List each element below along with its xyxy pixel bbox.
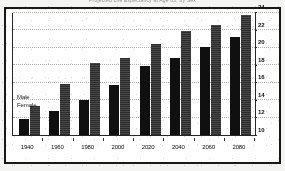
bar-female — [30, 106, 40, 135]
x-axis-tick-mark — [254, 138, 255, 141]
x-axis-tick-mark — [163, 138, 164, 141]
y-axis-tick-mark — [255, 100, 257, 101]
x-axis-tick-label: 2060 — [202, 144, 215, 151]
y-axis-tick-mark — [255, 65, 257, 66]
y-axis-tick-mark — [255, 82, 257, 83]
bar-female — [181, 31, 191, 135]
bar-female — [241, 15, 251, 135]
bar-male — [200, 47, 210, 135]
y-axis-tick-label: 10 — [258, 127, 264, 133]
chart-screenshot: Projected Life Expectancy at Age 65, by … — [0, 0, 285, 171]
y-axis-tick-mark — [255, 47, 257, 48]
y-axis-tick-label: 20 — [258, 39, 264, 45]
bar-female — [120, 58, 130, 135]
chart-frame: 1012141618202224 19401960198020002020204… — [4, 7, 281, 164]
bar-group — [135, 13, 165, 135]
plot-area — [12, 13, 255, 136]
y-axis-tick-label: 24 — [258, 4, 264, 10]
bar-male — [109, 85, 119, 135]
chart-legend: Male Female — [17, 93, 36, 109]
bar-group — [226, 13, 256, 135]
bar-male — [170, 58, 180, 135]
y-axis: 1012141618202224 — [255, 13, 277, 136]
y-axis-tick-label: 18 — [258, 57, 264, 63]
bar-group — [14, 13, 44, 135]
bar-male — [49, 111, 59, 135]
bar-male — [230, 37, 240, 135]
legend-item-female: Female — [17, 101, 36, 109]
y-axis-tick-mark — [255, 117, 257, 118]
x-axis-tick-mark — [224, 138, 225, 141]
y-axis-tick-mark — [255, 12, 257, 13]
x-axis-tick-label: 2080 — [232, 144, 245, 151]
bar-male — [79, 100, 89, 135]
bar-group — [105, 13, 135, 135]
x-axis-tick-label: 2040 — [172, 144, 185, 151]
chart-title-strip: Projected Life Expectancy at Age 65, by … — [0, 0, 285, 7]
x-axis: 19401960198020002020204020602080 — [12, 138, 255, 158]
y-axis-tick-label: 12 — [258, 109, 264, 115]
x-axis-tick-mark — [194, 138, 195, 141]
bar-group — [44, 13, 74, 135]
bar-groups — [14, 13, 255, 135]
y-axis-tick-label: 22 — [258, 22, 264, 28]
bar-group — [196, 13, 226, 135]
y-axis-tick-label: 16 — [258, 74, 264, 80]
x-axis-tick-label: 1940 — [21, 144, 34, 151]
bar-female — [60, 84, 70, 135]
bar-group — [165, 13, 195, 135]
bar-female — [211, 25, 221, 135]
y-axis-tick-mark — [255, 30, 257, 31]
bar-female — [151, 44, 161, 136]
bar-female — [90, 63, 100, 135]
bar-male — [19, 119, 29, 135]
x-axis-tick-label: 2020 — [142, 144, 155, 151]
x-axis-tick-mark — [133, 138, 134, 141]
bar-male — [140, 66, 150, 135]
y-axis-tick-label: 14 — [258, 92, 264, 98]
legend-item-male: Male — [17, 93, 36, 101]
x-axis-tick-mark — [42, 138, 43, 141]
x-axis-tick-mark — [103, 138, 104, 141]
chart-title: Projected Life Expectancy at Age 65, by … — [0, 0, 285, 3]
x-axis-tick-label: 1960 — [51, 144, 64, 151]
x-axis-tick-label: 1980 — [81, 144, 94, 151]
bar-group — [75, 13, 105, 135]
x-axis-tick-label: 2000 — [111, 144, 124, 151]
y-axis-tick-mark — [255, 135, 257, 136]
x-axis-tick-mark — [73, 138, 74, 141]
